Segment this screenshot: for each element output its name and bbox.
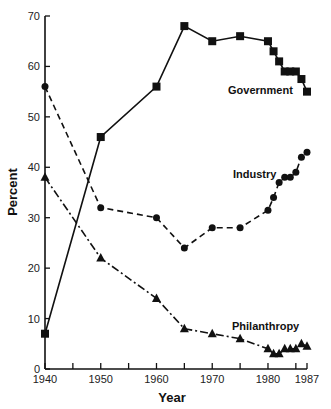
circle-marker bbox=[264, 207, 271, 214]
circle-marker bbox=[304, 149, 311, 156]
square-marker bbox=[275, 57, 283, 65]
y-tick-label: 20 bbox=[28, 262, 40, 274]
square-marker bbox=[208, 37, 216, 45]
y-tick-label: 60 bbox=[28, 60, 40, 72]
y-tick-label: 70 bbox=[28, 10, 40, 22]
circle-marker bbox=[270, 194, 277, 201]
square-marker bbox=[303, 88, 311, 96]
circle-marker bbox=[237, 224, 244, 231]
square-marker bbox=[180, 22, 188, 30]
circle-marker bbox=[153, 214, 160, 221]
circle-marker bbox=[209, 224, 216, 231]
square-marker bbox=[41, 330, 49, 338]
x-tick-label: 1987 bbox=[295, 373, 319, 385]
philanthropy-label: Philanthropy bbox=[232, 320, 300, 332]
x-tick-label: 1980 bbox=[256, 373, 280, 385]
x-axis-title: Year bbox=[158, 390, 185, 405]
y-axis-title: Percent bbox=[5, 167, 20, 215]
circle-marker bbox=[181, 244, 188, 251]
square-marker bbox=[292, 67, 300, 75]
circle-marker bbox=[97, 204, 104, 211]
x-tick-label: 1970 bbox=[200, 373, 224, 385]
line-chart: 010203040506070194019501960197019801987 … bbox=[0, 0, 331, 409]
triangle-marker bbox=[208, 329, 217, 338]
triangle-marker bbox=[152, 293, 161, 302]
x-tick-label: 1940 bbox=[33, 373, 57, 385]
square-marker bbox=[297, 75, 305, 83]
square-marker bbox=[97, 133, 105, 141]
y-tick-label: 10 bbox=[28, 313, 40, 325]
y-tick-label: 50 bbox=[28, 111, 40, 123]
circle-marker bbox=[276, 179, 283, 186]
circle-marker bbox=[287, 174, 294, 181]
square-marker bbox=[236, 32, 244, 40]
series-group bbox=[41, 22, 312, 357]
government-label: Government bbox=[228, 84, 293, 96]
y-tick-label: 40 bbox=[28, 161, 40, 173]
x-tick-label: 1960 bbox=[144, 373, 168, 385]
square-marker bbox=[152, 83, 160, 91]
circle-marker bbox=[298, 154, 305, 161]
triangle-marker bbox=[41, 172, 50, 181]
x-tick-label: 1950 bbox=[89, 373, 113, 385]
circle-marker bbox=[42, 83, 49, 90]
industry-label: Industry bbox=[233, 168, 277, 180]
circle-marker bbox=[292, 169, 299, 176]
triangle-marker bbox=[96, 253, 105, 261]
square-marker bbox=[270, 47, 278, 55]
y-tick-label: 30 bbox=[28, 212, 40, 224]
square-marker bbox=[264, 37, 272, 45]
